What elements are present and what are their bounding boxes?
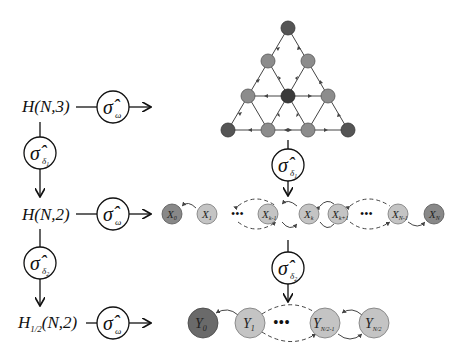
operator-sigma-omega-row3: σ̂ ω [86, 307, 151, 339]
lattice-node [321, 89, 335, 103]
chain-y-node-n2: YN/2 [359, 308, 389, 338]
svg-text:H1/2(N,2): H1/2(N,2) [17, 313, 78, 334]
diagram-canvas: H(N,3) H(N,2) H1/2(N,2) σ̂ ω σ̂ ω σ̂ ω σ… [0, 0, 463, 357]
chain-x-node-k-1: Xk-1 [258, 204, 278, 224]
chain-x-ellipsis-2: ••• [360, 207, 373, 221]
row-label-h-half-n-2: H1/2(N,2) [17, 313, 78, 334]
row-label-h-n-3: H(N,3) [21, 97, 70, 116]
svg-text:ω: ω [115, 217, 121, 227]
operator-sigma-delta2-right: σ̂ δ2 [272, 240, 304, 302]
chain-x: X0 X1 ••• Xk-1 Xk Xk+1 ••• XN-1 XN [162, 199, 444, 229]
chain-x-node-k: Xk [299, 204, 319, 224]
operator-sigma-delta1-right: σ̂ δ1 [272, 140, 304, 196]
svg-text:H(N,3): H(N,3) [21, 97, 70, 116]
chain-y: Y0 Y1 ••• YN/2-1 YN/2 [188, 305, 389, 342]
svg-text:ω: ω [115, 326, 121, 336]
triangular-lattice [221, 21, 355, 137]
svg-text:ω: ω [115, 110, 121, 120]
lattice-node [261, 54, 275, 68]
lattice-node-corner-top [281, 21, 295, 35]
chain-x-node-n: XN [424, 204, 444, 224]
chain-x-node-1: X1 [197, 204, 217, 224]
operator-sigma-omega-row2: σ̂ ω [76, 198, 151, 230]
lattice-node [301, 123, 315, 137]
svg-text:H(N,2): H(N,2) [21, 205, 70, 224]
chain-y-ellipsis: ••• [273, 314, 290, 331]
chain-x-node-k+1: Xk+1 [328, 204, 348, 224]
lattice-node-corner-right [341, 123, 355, 137]
lattice-node-corner-left [221, 123, 235, 137]
chain-x-node-0: X0 [162, 204, 182, 224]
operator-sigma-omega-row1: σ̂ ω [76, 91, 151, 123]
operator-sigma-delta1-left: σ̂ δ1 [24, 122, 56, 197]
row-label-h-n-2: H(N,2) [21, 205, 70, 224]
chain-x-node-n-1: XN-1 [388, 204, 408, 224]
lattice-node-center [281, 89, 295, 103]
lattice-node [241, 89, 255, 103]
chain-x-ellipsis-1: ••• [231, 207, 244, 221]
chain-y-node-1: Y1 [235, 308, 265, 338]
chain-y-node-n2-1: YN/2-1 [310, 308, 340, 338]
operator-sigma-delta2-left: σ̂ δ2 [24, 229, 56, 306]
lattice-node [301, 54, 315, 68]
lattice-node [261, 123, 275, 137]
chain-y-node-0: Y0 [188, 308, 218, 338]
